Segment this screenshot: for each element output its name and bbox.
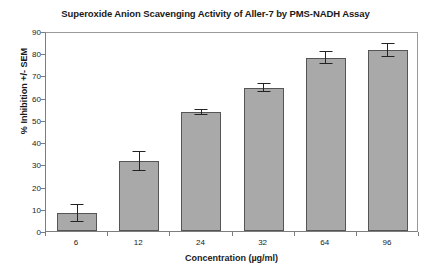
error-bar-line (325, 51, 326, 64)
y-tick-label: 10 (13, 205, 41, 214)
error-bar-cap-top (257, 83, 270, 84)
error-bar-line (387, 43, 388, 56)
x-tick-label: 6 (74, 238, 78, 247)
error-bar-cap-bottom (71, 221, 84, 222)
x-tick-label: 24 (196, 238, 205, 247)
chart-title: Superoxide Anion Scavenging Activity of … (0, 8, 431, 19)
x-tick-label: 96 (382, 238, 391, 247)
y-tick-mark (41, 99, 45, 100)
error-bar (257, 83, 270, 92)
y-tick-mark (41, 188, 45, 189)
y-tick-label: 40 (13, 139, 41, 148)
bar-group (119, 31, 159, 231)
y-tick-label: 80 (13, 50, 41, 59)
error-bar (319, 51, 332, 64)
x-tick-label: 12 (134, 238, 143, 247)
bar (368, 50, 408, 231)
y-tick-label: 20 (13, 183, 41, 192)
x-tick-mark (294, 232, 295, 236)
error-bar-cap-top (319, 51, 332, 52)
x-tick-mark (232, 232, 233, 236)
y-tick-label: 70 (13, 72, 41, 81)
error-bar-cap-bottom (381, 56, 394, 57)
y-tick-mark (41, 121, 45, 122)
x-tick-mark (356, 232, 357, 236)
bar-group (368, 31, 408, 231)
y-tick-mark (41, 210, 45, 211)
error-bar-cap-bottom (195, 114, 208, 115)
y-tick-mark (41, 76, 45, 77)
bar-group (244, 31, 284, 231)
error-bar-cap-top (133, 151, 146, 152)
bar (181, 112, 221, 231)
x-tick-mark (107, 232, 108, 236)
chart-screenshot: Superoxide Anion Scavenging Activity of … (0, 0, 431, 274)
error-bar (381, 43, 394, 56)
bar-group (306, 31, 346, 231)
x-axis-title: Concentration (µg/ml) (45, 253, 418, 263)
bar-group (57, 31, 97, 231)
y-tick-label: 60 (13, 94, 41, 103)
bars-layer (46, 33, 417, 231)
y-tick-label: 50 (13, 116, 41, 125)
y-tick-mark (41, 32, 45, 33)
y-tick-mark (41, 143, 45, 144)
plot-area (45, 32, 418, 232)
y-tick-label: 90 (13, 28, 41, 37)
y-tick-mark (41, 54, 45, 55)
error-bar (71, 204, 84, 222)
error-bar-cap-bottom (133, 170, 146, 171)
bar-group (181, 31, 221, 231)
error-bar-cap-bottom (319, 63, 332, 64)
error-bar-cap-top (71, 204, 84, 205)
error-bar-cap-bottom (257, 91, 270, 92)
x-tick-mark (169, 232, 170, 236)
bar (244, 88, 284, 231)
x-tick-mark (45, 232, 46, 236)
y-tick-label: 30 (13, 161, 41, 170)
error-bar-line (77, 204, 78, 222)
x-tick-mark (418, 232, 419, 236)
error-bar (133, 151, 146, 171)
error-bar-cap-top (381, 43, 394, 44)
error-bar (195, 109, 208, 116)
y-tick-label: 0 (13, 228, 41, 237)
error-bar-line (139, 151, 140, 171)
error-bar-cap-top (195, 109, 208, 110)
x-tick-label: 64 (320, 238, 329, 247)
bar (119, 161, 159, 231)
y-tick-mark (41, 165, 45, 166)
bar (306, 58, 346, 231)
x-tick-label: 32 (258, 238, 267, 247)
